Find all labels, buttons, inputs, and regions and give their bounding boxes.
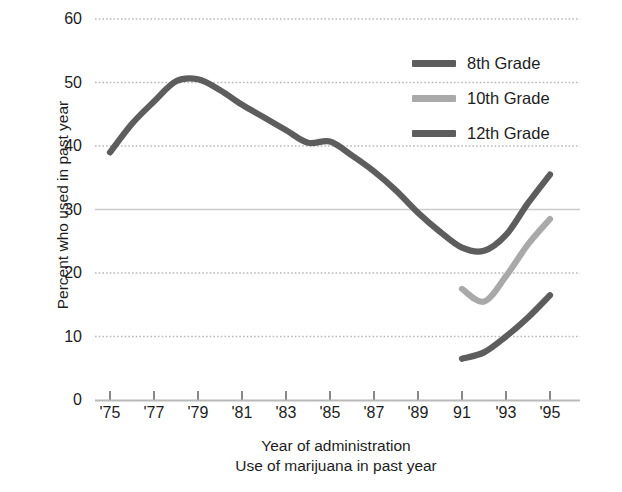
x-tick-label-1983: '83	[263, 404, 309, 422]
y-tick-label-30: 30	[42, 201, 82, 219]
y-tick-label-50: 50	[42, 74, 82, 92]
x-axis-title: Year of administration	[96, 436, 576, 456]
x-tick-label-1979: '79	[175, 404, 221, 422]
y-tick-label-40: 40	[42, 137, 82, 155]
y-tick-label-20: 20	[42, 264, 82, 282]
x-tick-label-1981: '81	[219, 404, 265, 422]
legend-item-8th-grade: 8th Grade	[412, 46, 550, 81]
x-axis-title-block: Year of administration Use of marijuana …	[96, 436, 576, 476]
series-line-8th-grade	[462, 295, 550, 359]
legend-item-label: 8th Grade	[467, 54, 540, 73]
figure-marijuana-use-chart: Percent who used in past year 0102030405…	[0, 0, 622, 492]
x-tick-label-1991: 91	[439, 404, 485, 422]
x-axis-tick-marks	[110, 391, 550, 400]
y-tick-label-10: 10	[42, 328, 82, 346]
legend-item-label: 10th Grade	[467, 89, 550, 108]
legend-item-label: 12th Grade	[467, 124, 550, 143]
x-tick-label-1989: '89	[395, 404, 441, 422]
legend-item-10th-grade: 10th Grade	[412, 81, 550, 116]
x-tick-label-1995: '95	[527, 404, 573, 422]
x-tick-label-1993: '93	[483, 404, 529, 422]
legend-swatch-icon	[412, 95, 456, 102]
y-tick-label-0: 0	[42, 391, 82, 409]
x-tick-label-1987: '87	[351, 404, 397, 422]
legend-item-12th-grade: 12th Grade	[412, 116, 550, 151]
chart-legend: 8th Grade10th Grade12th Grade	[412, 46, 550, 151]
x-tick-label-1975: '75	[87, 404, 133, 422]
legend-swatch-icon	[412, 130, 456, 137]
x-tick-label-1985: '85	[307, 404, 353, 422]
x-tick-label-1977: '77	[131, 404, 177, 422]
legend-swatch-icon	[412, 60, 456, 67]
chart-subtitle: Use of marijuana in past year	[96, 456, 576, 476]
y-tick-label-60: 60	[42, 10, 82, 28]
